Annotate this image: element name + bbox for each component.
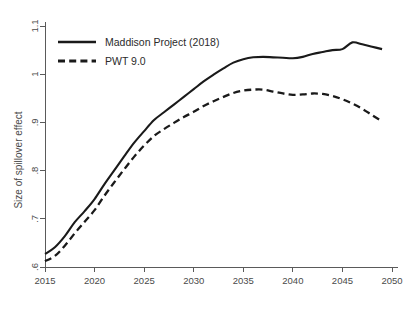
chart-legend: Maddison Project (2018)PWT 9.0 bbox=[58, 36, 219, 67]
y-tick-label: .9 bbox=[29, 118, 40, 126]
y-axis-ticks: .6.7.8.911.1 bbox=[29, 19, 45, 271]
y-tick-label: .7 bbox=[29, 215, 40, 223]
y-tick-label: .8 bbox=[29, 167, 40, 175]
y-tick-label: .6 bbox=[29, 263, 40, 271]
chart-figure: .6.7.8.911.1 201520202025203020352040204… bbox=[0, 0, 406, 312]
legend-label-2: PWT 9.0 bbox=[105, 55, 146, 67]
y-tick-label: 1.1 bbox=[29, 19, 40, 32]
x-tick-label: 2025 bbox=[134, 275, 155, 286]
legend-label-1: Maddison Project (2018) bbox=[105, 36, 219, 48]
y-axis-title: Size of spillover effect bbox=[13, 111, 24, 208]
x-tick-label: 2050 bbox=[381, 275, 402, 286]
x-tick-label: 2045 bbox=[332, 275, 353, 286]
series-line-1 bbox=[45, 42, 382, 254]
chart-series-group bbox=[45, 42, 382, 261]
x-tick-label: 2020 bbox=[84, 275, 105, 286]
x-tick-label: 2030 bbox=[183, 275, 204, 286]
x-tick-label: 2015 bbox=[34, 275, 55, 286]
series-line-2 bbox=[45, 89, 382, 261]
line-chart: .6.7.8.911.1 201520202025203020352040204… bbox=[0, 0, 406, 312]
x-tick-label: 2035 bbox=[233, 275, 254, 286]
x-axis-ticks: 20152020202520302035204020452050 bbox=[34, 267, 402, 286]
y-tick-label: 1 bbox=[29, 72, 40, 77]
x-tick-label: 2040 bbox=[282, 275, 303, 286]
